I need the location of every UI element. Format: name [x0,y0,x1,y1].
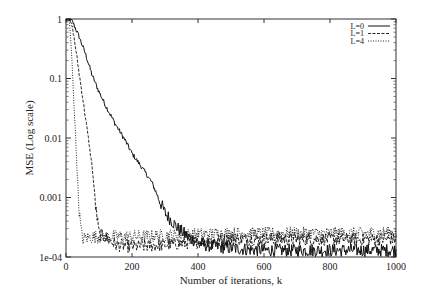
series-line-L0 [66,19,396,257]
series-line-L1 [66,19,396,253]
y-axis-label: MSE (Log scale) [23,100,36,175]
legend: L=0L=1L=4 [351,22,390,46]
y-tick-label: 1 [57,14,62,25]
x-tick-label: 400 [191,261,206,272]
x-tick-label: 800 [323,261,338,272]
x-axis-label: Number of iterations, k [180,274,283,286]
y-tick-label: 0.001 [40,192,63,203]
plot-frame [66,19,396,257]
y-tick-label: 0.01 [45,133,63,144]
mse-chart: 02004006008001000 10.10.010.0011e-04 Num… [0,0,429,298]
series-line-L4 [66,19,396,244]
y-tick-label: 1e-04 [39,252,62,263]
legend-label: L=4 [351,37,364,46]
series-layer [66,19,396,257]
x-tick-label: 1000 [386,261,406,272]
y-axis-ticks: 10.10.010.0011e-04 [39,14,396,263]
x-tick-label: 200 [125,261,140,272]
y-tick-label: 0.1 [50,73,63,84]
x-tick-label: 0 [64,261,69,272]
x-tick-label: 600 [257,261,272,272]
